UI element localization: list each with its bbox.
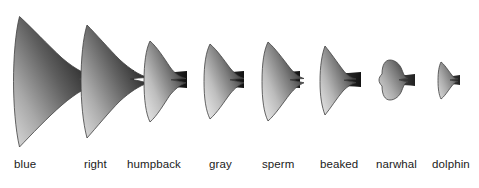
- fluke-right: [81, 25, 148, 138]
- fluke-label-dolphin: dolphin: [432, 158, 470, 170]
- fluke-label-beaked: beaked: [320, 158, 358, 170]
- fluke-sperm: [262, 42, 304, 121]
- fluke-gray: [204, 44, 244, 119]
- fluke-beaked: [320, 46, 361, 115]
- fluke-narwhal: [379, 60, 415, 100]
- fluke-label-gray: gray: [209, 158, 232, 170]
- fluke-label-humpback: humpback: [127, 158, 181, 170]
- fluke-dolphin: [438, 62, 460, 99]
- whale-fluke-comparison-figure: blue right humpback gray sperm beaked na…: [0, 0, 479, 188]
- fluke-humpback: [144, 41, 187, 122]
- fluke-label-narwhal: narwhal: [376, 158, 417, 170]
- fluke-label-right: right: [84, 158, 107, 170]
- fluke-sperm-shape: [262, 42, 304, 121]
- fluke-gray-shape: [204, 44, 244, 119]
- fluke-right-shape: [81, 25, 148, 138]
- fluke-label-blue: blue: [14, 158, 36, 170]
- fluke-label-sperm: sperm: [262, 158, 294, 170]
- fluke-humpback-shape: [144, 41, 186, 122]
